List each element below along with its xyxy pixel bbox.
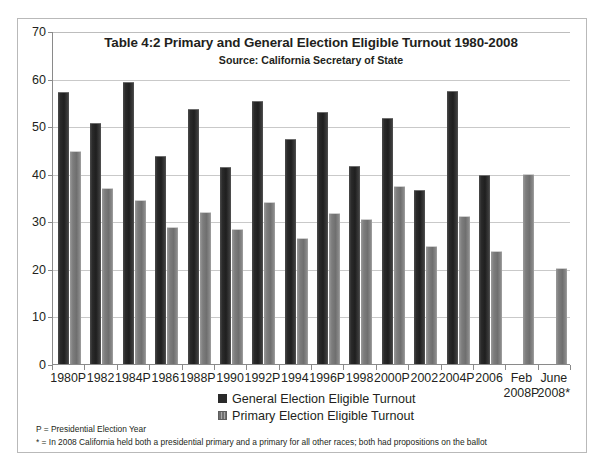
y-axis-tick-label: 30 — [18, 216, 46, 229]
y-axis-tick — [48, 80, 53, 81]
bar-primary-election[interactable] — [135, 200, 146, 364]
bar-group — [218, 32, 250, 364]
bar-general-election[interactable] — [188, 109, 199, 365]
bar-primary-election[interactable] — [70, 151, 81, 364]
bar-general-election[interactable] — [155, 156, 166, 364]
bar-primary-election[interactable] — [102, 188, 113, 364]
x-axis-tick — [84, 365, 85, 370]
bar-primary-election[interactable] — [523, 174, 534, 364]
y-axis-tick-label: 10 — [18, 311, 46, 324]
bar-general-election[interactable] — [58, 92, 69, 364]
x-axis-tick — [343, 365, 344, 370]
bar-general-election[interactable] — [220, 167, 231, 364]
bar-group — [186, 32, 218, 364]
y-axis-tick — [48, 222, 53, 223]
bar-group — [445, 32, 477, 364]
chart-footnotes: P = Presidential Election Year* = In 200… — [36, 423, 576, 449]
x-axis-tick — [408, 365, 409, 370]
bar-series-container — [54, 32, 570, 364]
bar-group — [315, 32, 347, 364]
y-axis-tick-label: 60 — [18, 73, 46, 86]
bar-primary-election[interactable] — [426, 246, 437, 365]
bar-primary-election[interactable] — [459, 216, 470, 364]
bar-primary-election[interactable] — [264, 202, 275, 364]
y-axis-tick — [48, 127, 53, 128]
bar-general-election[interactable] — [90, 123, 101, 364]
bar-group — [56, 32, 88, 364]
bar-general-election[interactable] — [414, 190, 425, 364]
bar-general-election[interactable] — [317, 112, 328, 364]
x-axis-category-label: June 2008* — [534, 371, 574, 401]
bar-primary-election[interactable] — [394, 186, 405, 364]
y-axis-tick — [48, 32, 53, 33]
legend-item[interactable]: General Election Eligible Turnout — [218, 390, 488, 407]
bar-primary-election[interactable] — [361, 219, 372, 364]
bar-group — [347, 32, 379, 364]
bar-primary-election[interactable] — [297, 238, 308, 364]
bar-group — [283, 32, 315, 364]
x-axis-tick — [570, 365, 571, 370]
x-axis-tick — [182, 365, 183, 370]
bar-primary-election[interactable] — [232, 229, 243, 364]
legend-label: Primary Election Eligible Turnout — [232, 409, 414, 423]
x-axis-tick — [149, 365, 150, 370]
y-axis-tick-label: 0 — [18, 359, 46, 372]
bar-primary-election[interactable] — [556, 268, 567, 364]
bar-general-election[interactable] — [285, 139, 296, 364]
x-axis-tick — [441, 365, 442, 370]
y-axis-tick — [48, 270, 53, 271]
bar-general-election[interactable] — [123, 82, 134, 364]
bar-group — [477, 32, 509, 364]
x-axis-tick — [473, 365, 474, 370]
x-axis-tick — [117, 365, 118, 370]
x-axis-tick — [52, 365, 53, 370]
x-axis-tick — [376, 365, 377, 370]
bar-primary-election[interactable] — [329, 213, 340, 364]
bar-group — [380, 32, 412, 364]
bar-general-election[interactable] — [252, 101, 263, 364]
bar-group — [542, 32, 574, 364]
y-axis-tick-label: 20 — [18, 264, 46, 277]
bar-primary-election[interactable] — [167, 227, 178, 364]
legend-swatch-general-icon — [218, 394, 227, 403]
bar-group — [250, 32, 282, 364]
bar-general-election[interactable] — [447, 91, 458, 364]
chart-legend: General Election Eligible TurnoutPrimary… — [218, 390, 488, 424]
bar-general-election[interactable] — [479, 175, 490, 364]
chart-figure: Table 4:2 Primary and General Election E… — [17, 18, 587, 453]
bar-group — [412, 32, 444, 364]
x-axis-tick — [505, 365, 506, 370]
bar-primary-election[interactable] — [491, 251, 502, 364]
x-axis-tick — [246, 365, 247, 370]
bar-group — [121, 32, 153, 364]
bar-primary-election[interactable] — [200, 212, 211, 364]
y-axis-tick-label: 50 — [18, 121, 46, 134]
bar-general-election[interactable] — [382, 118, 393, 364]
bar-general-election[interactable] — [349, 166, 360, 364]
footnote: P = Presidential Election Year — [36, 423, 576, 436]
bar-group — [88, 32, 120, 364]
x-axis-tick — [279, 365, 280, 370]
plot-area — [52, 32, 570, 365]
y-axis-tick — [48, 317, 53, 318]
legend-item[interactable]: Primary Election Eligible Turnout — [218, 407, 488, 424]
x-axis-tick — [311, 365, 312, 370]
bar-group — [153, 32, 185, 364]
y-axis-tick-label: 70 — [18, 26, 46, 39]
y-axis-tick — [48, 175, 53, 176]
y-axis-labels: 010203040506070 — [18, 32, 46, 365]
x-axis-tick — [538, 365, 539, 370]
footnote: * = In 2008 California held both a presi… — [36, 436, 576, 449]
y-axis-tick-label: 40 — [18, 168, 46, 181]
legend-label: General Election Eligible Turnout — [232, 392, 415, 406]
bar-group — [509, 32, 541, 364]
legend-swatch-primary-icon — [218, 411, 227, 420]
x-axis-tick — [214, 365, 215, 370]
